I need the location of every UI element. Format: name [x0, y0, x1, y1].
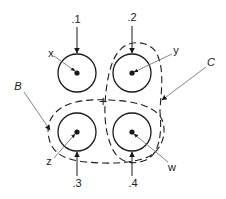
leader-line-z — [54, 134, 75, 158]
label-n1: .1 — [71, 13, 80, 25]
label-n4: .4 — [128, 177, 137, 189]
leader-line-y — [134, 54, 172, 72]
element-y — [113, 26, 172, 92]
group-b-dashed-loop — [48, 100, 164, 163]
label-group-c: C — [207, 56, 215, 68]
label-group-b: B — [14, 80, 21, 92]
pivot-dot-y — [129, 70, 134, 75]
label-n3: .3 — [72, 177, 81, 189]
label-w: w — [167, 161, 176, 173]
label-z: z — [46, 155, 52, 167]
leader-line-c — [162, 67, 206, 100]
pivot-dot-w — [129, 129, 134, 134]
label-y: y — [173, 44, 179, 56]
leader-line-b — [24, 92, 50, 130]
label-x: x — [48, 47, 54, 59]
pin-group-diagram: + .1 .2 .3 .4 x y z w B C — [0, 0, 226, 199]
label-n2: .2 — [127, 11, 136, 23]
element-w — [113, 113, 168, 176]
center-plus-mark: + — [99, 93, 107, 109]
element-x — [54, 27, 96, 92]
pivot-dot-z — [74, 129, 79, 134]
pivot-dot-x — [74, 70, 79, 75]
element-z — [54, 113, 96, 176]
